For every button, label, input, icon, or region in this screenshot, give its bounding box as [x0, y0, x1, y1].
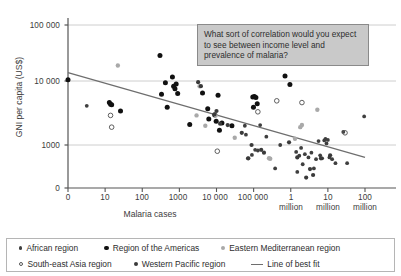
- data-point: [199, 84, 203, 88]
- data-point: [229, 123, 234, 128]
- data-point: [108, 113, 113, 118]
- data-point: [294, 150, 298, 154]
- chart-legend: African region Region of the Americas Ea…: [6, 238, 395, 272]
- legend-row-1: African region Region of the Americas Ea…: [7, 240, 394, 256]
- data-point: [311, 173, 315, 177]
- data-point: [215, 149, 220, 154]
- legend-label: Western Pacific region: [142, 259, 226, 269]
- data-point: [362, 114, 366, 118]
- legend-label: Line of best fit: [267, 259, 319, 269]
- data-point: [200, 90, 205, 95]
- data-point: [319, 156, 323, 160]
- legend-marker-dot-icon: [19, 246, 22, 249]
- data-point: [301, 162, 305, 166]
- y-tick-label-100000: 100 000: [8, 21, 60, 30]
- data-point: [66, 77, 71, 82]
- data-point: [240, 131, 244, 135]
- data-point: [330, 157, 334, 161]
- x-tick-label-1million: 1: [275, 193, 307, 202]
- legend-marker-line-icon: [251, 264, 263, 265]
- data-point: [278, 143, 282, 147]
- x-tick-label-10000: 10 000: [195, 193, 235, 202]
- data-point: [264, 135, 268, 139]
- legend-marker-dot-icon: [134, 262, 138, 266]
- legend-item-region-of-the-americas: Region of the Americas: [104, 243, 199, 253]
- x-tick-sublabel-10million: million: [312, 203, 344, 212]
- data-point: [233, 136, 237, 140]
- data-point: [310, 151, 314, 155]
- data-point: [304, 175, 308, 179]
- legend-item-african-region: African region: [19, 243, 78, 253]
- data-point: [172, 86, 177, 91]
- data-point: [312, 167, 316, 171]
- data-point: [299, 146, 303, 150]
- y-axis-title: GNI per capita (US$): [14, 38, 24, 156]
- data-point: [187, 122, 192, 127]
- data-point: [85, 104, 89, 108]
- data-point: [300, 123, 304, 127]
- data-point: [253, 95, 258, 100]
- data-point: [214, 109, 218, 113]
- data-point: [307, 156, 311, 160]
- data-point: [283, 73, 288, 78]
- x-tick-label-100million: 100: [349, 193, 381, 202]
- legend-label: Eastern Mediterranean region: [229, 243, 340, 253]
- data-point: [218, 122, 222, 126]
- x-tick-label-1000: 1000: [162, 193, 194, 202]
- x-tick-sublabel-100million: million: [349, 203, 381, 212]
- data-point: [244, 133, 248, 137]
- data-point: [287, 82, 292, 87]
- legend-item-western-pacific-region: Western Pacific region: [134, 259, 226, 269]
- data-point: [165, 105, 170, 110]
- data-point: [303, 152, 307, 156]
- x-tick-label-100000: 100 000: [231, 193, 275, 202]
- data-point: [295, 155, 299, 159]
- data-point: [287, 140, 291, 144]
- y-tick-label-0: 0: [8, 184, 60, 193]
- legend-row-2: South-east Asia region Western Pacific r…: [7, 256, 394, 272]
- data-point: [308, 167, 312, 171]
- legend-label: African region: [26, 243, 78, 253]
- data-point: [159, 92, 164, 97]
- data-point: [217, 128, 222, 133]
- data-point: [175, 91, 180, 96]
- data-point: [249, 143, 253, 147]
- data-point: [170, 75, 175, 80]
- data-point: [206, 116, 211, 121]
- data-point: [174, 81, 179, 86]
- x-tick-label-10million: 10: [312, 193, 344, 202]
- data-point: [256, 149, 260, 153]
- chart-figure: 100 000 10 000 1000 0 GNI per capita (US…: [0, 0, 401, 276]
- data-point: [118, 108, 123, 113]
- data-point: [246, 156, 250, 160]
- data-point: [109, 102, 114, 107]
- data-point: [243, 124, 247, 128]
- x-axis-title: Malaria cases: [0, 209, 300, 219]
- data-point: [262, 151, 266, 155]
- legend-item-south-east-asia-region: South-east Asia region: [19, 259, 112, 269]
- data-point: [250, 153, 254, 157]
- data-point: [194, 113, 198, 117]
- data-point: [273, 167, 277, 171]
- legend-label: Region of the Americas: [113, 243, 200, 253]
- data-point: [203, 124, 207, 128]
- x-tick-label-0: 0: [52, 193, 84, 202]
- data-point: [163, 80, 168, 85]
- data-point: [157, 53, 162, 58]
- legend-marker-open-circle-icon: [19, 262, 23, 266]
- data-point: [116, 63, 120, 67]
- data-point: [205, 106, 210, 111]
- data-point: [326, 138, 330, 142]
- data-point: [251, 105, 256, 110]
- data-point: [293, 137, 297, 141]
- legend-label: South-east Asia region: [27, 259, 111, 269]
- data-point: [216, 93, 221, 98]
- data-point: [295, 170, 299, 174]
- x-tick-label-10: 10: [89, 193, 121, 202]
- data-point: [226, 123, 230, 127]
- legend-item-line-of-best-fit: Line of best fit: [251, 259, 319, 269]
- x-tick-label-100: 100: [126, 193, 158, 202]
- data-point: [328, 153, 332, 157]
- data-point: [268, 157, 272, 161]
- data-point: [274, 99, 279, 104]
